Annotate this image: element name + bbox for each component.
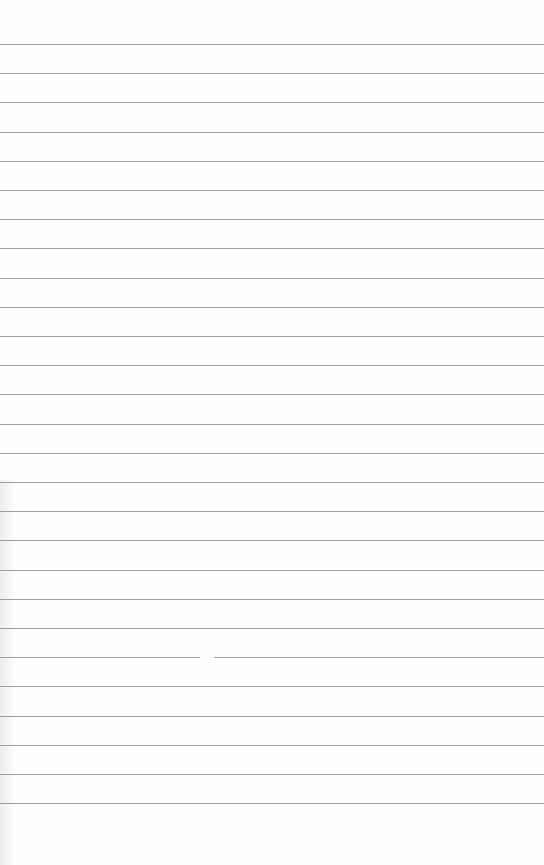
ruled-line <box>0 657 544 658</box>
ruled-line <box>0 424 544 425</box>
ruled-line <box>0 365 544 366</box>
lined-paper-sheet <box>0 0 544 865</box>
ruled-line <box>0 511 544 512</box>
line-gap-mark <box>200 657 214 660</box>
ruled-line <box>0 803 544 804</box>
ruled-line <box>0 219 544 220</box>
ruled-line <box>0 248 544 249</box>
ruled-line <box>0 745 544 746</box>
ruled-line <box>0 774 544 775</box>
ruled-line <box>0 599 544 600</box>
ruled-line <box>0 628 544 629</box>
ruled-line <box>0 686 544 687</box>
ruled-line <box>0 132 544 133</box>
ruled-line <box>0 307 544 308</box>
ruled-line <box>0 336 544 337</box>
ruled-line <box>0 570 544 571</box>
ruled-line <box>0 394 544 395</box>
page-edge-shadow <box>0 480 16 865</box>
ruled-line <box>0 102 544 103</box>
ruled-line <box>0 161 544 162</box>
ruled-line <box>0 73 544 74</box>
ruled-line <box>0 453 544 454</box>
ruled-line <box>0 540 544 541</box>
ruled-line <box>0 278 544 279</box>
ruled-line <box>0 482 544 483</box>
ruled-line <box>0 190 544 191</box>
ruled-line <box>0 44 544 45</box>
ruled-line <box>0 716 544 717</box>
